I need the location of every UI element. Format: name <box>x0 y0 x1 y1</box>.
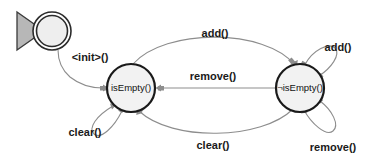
state-is-empty-label: isEmpty() <box>111 82 151 93</box>
edge-label-add: add() <box>202 27 229 39</box>
edge-clear-transition[interactable] <box>136 105 293 133</box>
state-not-is-empty[interactable]: ¬isEmpty() <box>276 64 324 112</box>
edge-label-remove-self-loop: remove() <box>310 141 357 153</box>
edge-remove-arrow-tail <box>158 86 164 91</box>
edge-remove-transition[interactable] <box>156 85 277 92</box>
edge-label-remove: remove() <box>190 70 237 82</box>
start-inner-circle <box>37 16 68 47</box>
edge-label-clear: clear() <box>196 139 229 151</box>
state-not-is-empty-label: ¬isEmpty() <box>277 82 323 93</box>
edge-label-clear-self-loop: clear() <box>68 126 101 138</box>
state-start[interactable] <box>17 12 71 50</box>
edge-init-arrow-tail <box>100 86 106 91</box>
state-diagram-svg: isEmpty() ¬isEmpty() <init>() add() remo… <box>0 0 371 166</box>
edge-label-add-self-loop: add() <box>325 41 352 53</box>
edge-clear-path <box>139 109 293 133</box>
state-is-empty[interactable]: isEmpty() <box>107 64 155 112</box>
edge-add-transition[interactable] <box>133 37 298 67</box>
edge-add-path <box>133 37 295 65</box>
state-diagram-canvas: isEmpty() ¬isEmpty() <init>() add() remo… <box>0 0 371 166</box>
edge-label-init: <init>() <box>72 51 109 63</box>
